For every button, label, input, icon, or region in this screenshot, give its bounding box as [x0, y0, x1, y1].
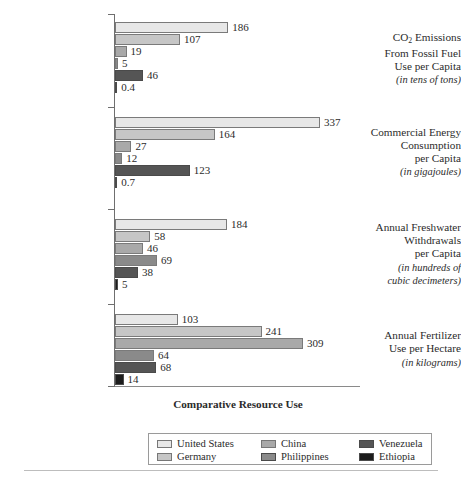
legend-swatch-icon — [261, 440, 276, 448]
bar-co2-emissions-ethiopia — [115, 82, 117, 93]
bar-value-label: 184 — [231, 218, 248, 230]
value-axis-baseline — [114, 386, 360, 387]
axis-tick-0 — [108, 14, 115, 15]
bar-freshwater-withdrawals-venezuela — [115, 267, 138, 278]
bar-co2-emissions-venezuela — [115, 70, 143, 81]
legend-swatch-icon — [359, 440, 374, 448]
legend-item-ethiopia[interactable]: Ethiopia — [359, 451, 437, 463]
legend-item-germany[interactable]: Germany — [157, 451, 261, 463]
legend-label: Ethiopia — [379, 451, 415, 463]
category-label-line: Commercial Energy — [358, 126, 461, 139]
category-label-line: Use per Hectare — [358, 342, 461, 355]
bar-value-label: 14 — [128, 373, 139, 385]
bar-value-label: 27 — [135, 140, 146, 152]
category-unit-line: cubic decimeters) — [358, 274, 461, 287]
legend-item-united-states[interactable]: United States — [157, 438, 261, 450]
bar-value-label: 0.7 — [121, 176, 135, 188]
bar-commercial-energy-united-states — [115, 117, 320, 128]
bar-value-label: 5 — [122, 57, 128, 69]
bar-value-label: 103 — [182, 313, 199, 325]
bar-group-fertilizer-use: Annual FertilizerUse per Hectare(in kilo… — [0, 314, 461, 386]
legend-label: Venezuela — [379, 438, 423, 450]
axis-tick-4 — [108, 386, 115, 387]
category-label-co2-emissions: CO2 EmissionsFrom Fossil FuelUse per Cap… — [358, 31, 461, 87]
legend-label: Germany — [177, 451, 216, 463]
chart-plot-area: CO2 EmissionsFrom Fossil FuelUse per Cap… — [0, 0, 461, 400]
bar-group-freshwater-withdrawals: Annual FreshwaterWithdrawalsper Capita(i… — [0, 219, 461, 291]
bar-commercial-energy-philippines — [115, 153, 122, 164]
chart-legend: United StatesChinaVenezuelaGermanyPhilip… — [148, 433, 432, 465]
bar-commercial-energy-ethiopia — [115, 177, 117, 188]
legend-label: Philippines — [281, 451, 329, 463]
category-label-line: per Capita — [358, 247, 461, 260]
bar-value-label: 186 — [232, 21, 249, 33]
bar-value-label: 0.4 — [121, 81, 135, 93]
legend-swatch-icon — [359, 453, 374, 461]
bar-commercial-energy-venezuela — [115, 165, 190, 176]
bar-value-label: 12 — [126, 152, 137, 164]
bar-freshwater-withdrawals-united-states — [115, 219, 227, 230]
category-unit-line: (in kilograms) — [358, 356, 461, 369]
bar-value-label: 68 — [160, 361, 171, 373]
bar-value-label: 64 — [158, 349, 169, 361]
bar-value-label: 46 — [147, 242, 158, 254]
bar-value-label: 164 — [219, 128, 236, 140]
page-divider-rule — [24, 470, 438, 471]
category-label-freshwater-withdrawals: Annual FreshwaterWithdrawalsper Capita(i… — [358, 221, 461, 287]
category-label-fertilizer-use: Annual FertilizerUse per Hectare(in kilo… — [358, 329, 461, 369]
category-label-line: Use per Capita — [358, 60, 461, 73]
legend-swatch-icon — [157, 440, 172, 448]
legend-swatch-icon — [157, 453, 172, 461]
category-label-line: Annual Freshwater — [358, 221, 461, 234]
bar-value-label: 241 — [266, 325, 283, 337]
category-label-line: From Fossil Fuel — [358, 47, 461, 60]
bar-value-label: 309 — [307, 337, 324, 349]
bar-freshwater-withdrawals-china — [115, 243, 143, 254]
bar-fertilizer-use-germany — [115, 326, 262, 337]
bar-co2-emissions-germany — [115, 34, 180, 45]
category-label-line: Annual Fertilizer — [358, 329, 461, 342]
bar-value-label: 19 — [131, 45, 142, 57]
bar-freshwater-withdrawals-ethiopia — [115, 279, 118, 290]
category-unit-line: (in hundreds of — [358, 261, 461, 274]
bar-freshwater-withdrawals-philippines — [115, 255, 157, 266]
bar-fertilizer-use-philippines — [115, 350, 154, 361]
bar-co2-emissions-united-states — [115, 22, 228, 33]
bar-co2-emissions-china — [115, 46, 127, 57]
category-label-line: per Capita — [358, 152, 461, 165]
category-label-commercial-energy: Commercial EnergyConsumptionper Capita(i… — [358, 126, 461, 179]
bar-commercial-energy-china — [115, 141, 131, 152]
category-label-line: CO2 Emissions — [358, 31, 461, 47]
legend-grid: United StatesChinaVenezuelaGermanyPhilip… — [157, 437, 431, 463]
bar-fertilizer-use-united-states — [115, 314, 178, 325]
bar-commercial-energy-germany — [115, 129, 215, 140]
legend-label: China — [281, 438, 306, 450]
bar-value-label: 58 — [154, 230, 165, 242]
axis-title: Comparative Resource Use — [115, 398, 361, 410]
comparative-resource-use-figure: CO2 EmissionsFrom Fossil FuelUse per Cap… — [0, 0, 461, 482]
category-label-line: Withdrawals — [358, 234, 461, 247]
category-label-line: Consumption — [358, 139, 461, 152]
legend-item-philippines[interactable]: Philippines — [261, 451, 359, 463]
legend-swatch-icon — [261, 453, 276, 461]
axis-tick-2 — [108, 209, 115, 210]
bar-value-label: 107 — [184, 33, 201, 45]
bar-co2-emissions-philippines — [115, 58, 118, 69]
category-unit-line: (in tens of tons) — [358, 73, 461, 86]
bar-value-label: 337 — [324, 116, 341, 128]
bar-value-label: 38 — [142, 266, 153, 278]
legend-item-china[interactable]: China — [261, 438, 359, 450]
category-unit-line: (in gigajoules) — [358, 165, 461, 178]
bar-freshwater-withdrawals-germany — [115, 231, 150, 242]
axis-tick-1 — [108, 107, 115, 108]
legend-item-venezuela[interactable]: Venezuela — [359, 438, 437, 450]
bar-group-co2-emissions: CO2 EmissionsFrom Fossil FuelUse per Cap… — [0, 22, 461, 94]
bar-group-commercial-energy: Commercial EnergyConsumptionper Capita(i… — [0, 117, 461, 189]
bar-value-label: 46 — [147, 69, 158, 81]
bar-fertilizer-use-ethiopia — [115, 374, 124, 385]
bar-value-label: 123 — [194, 164, 211, 176]
axis-tick-3 — [108, 304, 115, 305]
bar-fertilizer-use-venezuela — [115, 362, 156, 373]
legend-label: United States — [177, 438, 234, 450]
bar-value-label: 5 — [122, 278, 128, 290]
